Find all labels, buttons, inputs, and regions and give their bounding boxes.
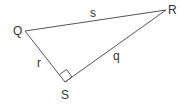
vertex-label-r: R [168, 3, 177, 17]
side-label-r: r [37, 56, 41, 70]
side-label-q: q [113, 49, 120, 63]
triangle-qrs [25, 10, 166, 82]
vertex-label-s: S [61, 88, 69, 102]
right-angle-marker [60, 70, 73, 83]
triangle-diagram: Q R S s r q [0, 0, 180, 104]
side-label-s: s [90, 6, 96, 20]
vertex-label-q: Q [13, 24, 22, 38]
